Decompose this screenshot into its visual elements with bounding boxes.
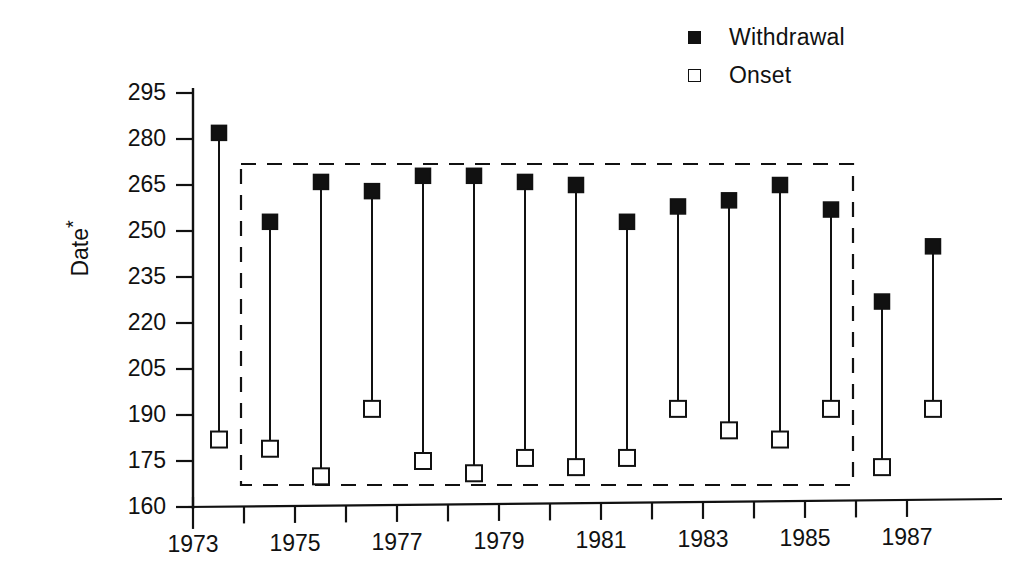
y-axis-ticks: [176, 93, 193, 507]
withdrawal-data-point: [467, 168, 482, 183]
withdrawal-data-point: [416, 168, 431, 183]
withdrawal-data-point: [518, 174, 533, 189]
y-axis-tick-label: 250: [104, 219, 166, 242]
onset-data-point: [364, 401, 380, 417]
x-axis-line: [185, 499, 1002, 507]
dashed-highlight-box: [241, 164, 853, 485]
x-axis-tick-label: 1985: [760, 527, 850, 550]
withdrawal-data-point: [365, 184, 380, 199]
y-axis-tick-label: 175: [104, 449, 166, 472]
withdrawal-data-point: [671, 199, 686, 214]
withdrawal-data-point: [773, 178, 788, 193]
onset-data-point: [874, 459, 890, 475]
withdrawal-data-point: [824, 202, 839, 217]
onset-data-point: [925, 401, 941, 417]
onset-data-point: [772, 432, 788, 448]
y-axis-tick-label: 265: [104, 173, 166, 196]
chart-root: Withdrawal Onset Date* 16017519020522023…: [0, 0, 1026, 587]
onset-data-point: [211, 432, 227, 448]
x-axis-tick-label: 1981: [556, 529, 646, 552]
onset-data-point: [823, 401, 839, 417]
y-axis-tick-label: 280: [104, 127, 166, 150]
withdrawal-data-point: [569, 178, 584, 193]
y-axis-tick-label: 190: [104, 403, 166, 426]
onset-data-point: [313, 468, 329, 484]
y-axis-tick-label: 160: [104, 495, 166, 518]
withdrawal-data-point: [875, 294, 890, 309]
x-axis-tick-label: 1973: [148, 533, 238, 556]
y-axis-tick-label: 220: [104, 311, 166, 334]
withdrawal-data-point: [212, 125, 227, 140]
withdrawal-data-point: [620, 214, 635, 229]
withdrawal-data-point: [263, 214, 278, 229]
x-axis-tick-label: 1983: [658, 528, 748, 551]
dashed-highlight-box-rect: [241, 164, 853, 485]
x-axis-tick-label: 1979: [454, 530, 544, 553]
onset-data-point: [466, 465, 482, 481]
onset-data-point: [262, 441, 278, 457]
onset-data-point: [517, 450, 533, 466]
y-axis-tick-label: 235: [104, 265, 166, 288]
onset-data-point: [415, 453, 431, 469]
data-series-layer: [211, 125, 941, 484]
onset-data-point: [721, 422, 737, 438]
withdrawal-data-point: [722, 193, 737, 208]
y-axis-tick-label: 295: [104, 81, 166, 104]
y-axis-tick-label: 205: [104, 357, 166, 380]
x-axis-tick-label: 1977: [352, 531, 442, 554]
onset-data-point: [568, 459, 584, 475]
x-axis-tick-label: 1975: [250, 532, 340, 555]
x-axis-tick-label: 1987: [862, 526, 952, 549]
onset-data-point: [619, 450, 635, 466]
withdrawal-data-point: [314, 174, 329, 189]
withdrawal-data-point: [926, 239, 941, 254]
onset-data-point: [670, 401, 686, 417]
